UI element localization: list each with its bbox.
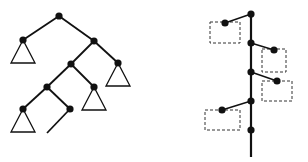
tree-edge <box>47 87 70 109</box>
tree-edge <box>71 64 94 87</box>
tree-edge <box>71 41 94 64</box>
branch-node <box>218 106 225 113</box>
tree-node <box>67 60 74 67</box>
branch-edge <box>222 101 251 110</box>
tree-node <box>114 59 121 66</box>
spine-node <box>247 68 254 75</box>
spine-node <box>247 126 254 133</box>
tree-node <box>90 37 97 44</box>
tree-edge <box>59 16 94 41</box>
branch-node <box>273 77 280 84</box>
tree-node <box>55 12 62 19</box>
tree-node <box>19 36 26 43</box>
tree-node <box>66 105 73 112</box>
spine-node <box>247 10 254 17</box>
tree-node <box>19 105 26 112</box>
tree-node <box>43 83 50 90</box>
spine-tree <box>205 10 292 157</box>
branch-node <box>270 46 277 53</box>
branch-node <box>221 19 228 26</box>
binary-tree <box>11 12 130 133</box>
tree-diagram <box>0 0 308 162</box>
branch-edge <box>251 72 277 81</box>
tree-edge <box>47 64 71 87</box>
spine-node <box>247 97 254 104</box>
tree-edge <box>23 87 47 109</box>
tree-edge <box>23 16 59 40</box>
tree-edge <box>47 109 70 133</box>
spine-node <box>247 39 254 46</box>
tree-edge <box>94 41 118 63</box>
tree-node <box>90 83 97 90</box>
